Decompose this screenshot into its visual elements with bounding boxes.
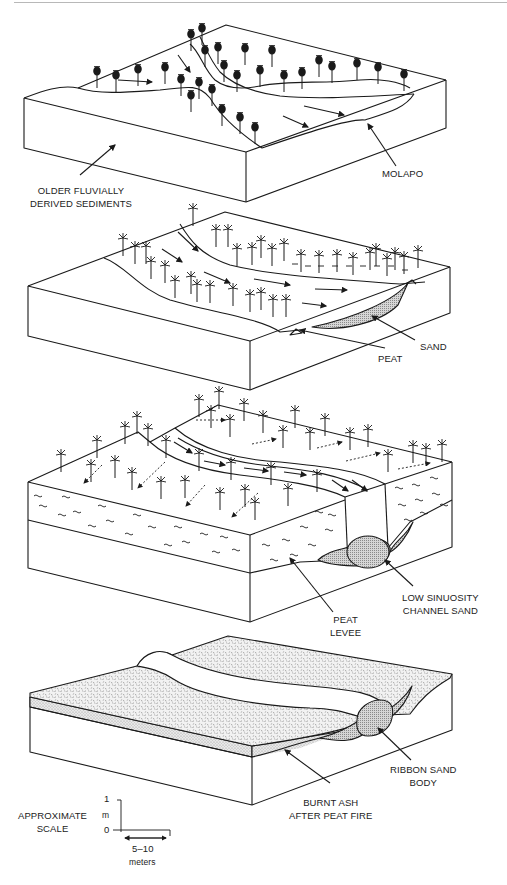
scale-bar: [113, 800, 170, 838]
label-line: SAND: [420, 341, 447, 354]
label-line: SCALE: [18, 823, 87, 836]
scale-horizontal-value: 5–10: [132, 843, 154, 856]
label-molapo: MOLAPO: [382, 168, 423, 181]
label-low-sinuosity-channel-sand: LOW SINUOSITY CHANNEL SAND: [402, 592, 479, 617]
scale-vertical-unit: m: [102, 809, 109, 822]
label-line: BURNT ASH: [289, 797, 373, 810]
label-line: DERIVED SEDIMENTS: [30, 198, 132, 211]
label-sand: SAND: [420, 341, 447, 354]
label-peat-levee: PEAT LEVEE: [330, 614, 361, 639]
label-line: PEAT: [330, 614, 361, 627]
label-line: AFTER PEAT FIRE: [289, 810, 373, 823]
block-diagram-figure: [0, 0, 507, 885]
panel-3-levee-block: [28, 405, 452, 622]
scale-horizontal-unit: meters: [129, 856, 156, 869]
label-line: CHANNEL SAND: [402, 605, 479, 618]
label-line: BODY: [390, 777, 457, 790]
scale-title: APPROXIMATE SCALE: [18, 810, 87, 835]
label-ribbon-sand-body: RIBBON SAND BODY: [390, 764, 457, 789]
label-peat: PEAT: [378, 353, 403, 366]
scale-vertical-top: 1: [104, 793, 109, 806]
label-older-fluvially-derived-sediments: OLDER FLUVIALLY DERIVED SEDIMENTS: [30, 185, 132, 210]
label-burnt-ash-after-peat-fire: BURNT ASH AFTER PEAT FIRE: [289, 797, 373, 822]
label-line: MOLAPO: [382, 168, 423, 181]
label-line: LOW SINUOSITY: [402, 592, 479, 605]
scale-vertical-bottom: 0: [104, 824, 109, 837]
label-line: PEAT: [378, 353, 403, 366]
label-line: LEVEE: [330, 627, 361, 640]
label-line: APPROXIMATE: [18, 810, 87, 823]
label-line: OLDER FLUVIALLY: [30, 185, 132, 198]
label-line: RIBBON SAND: [390, 764, 457, 777]
panel-4-ribbon-sand-block: [30, 636, 452, 805]
